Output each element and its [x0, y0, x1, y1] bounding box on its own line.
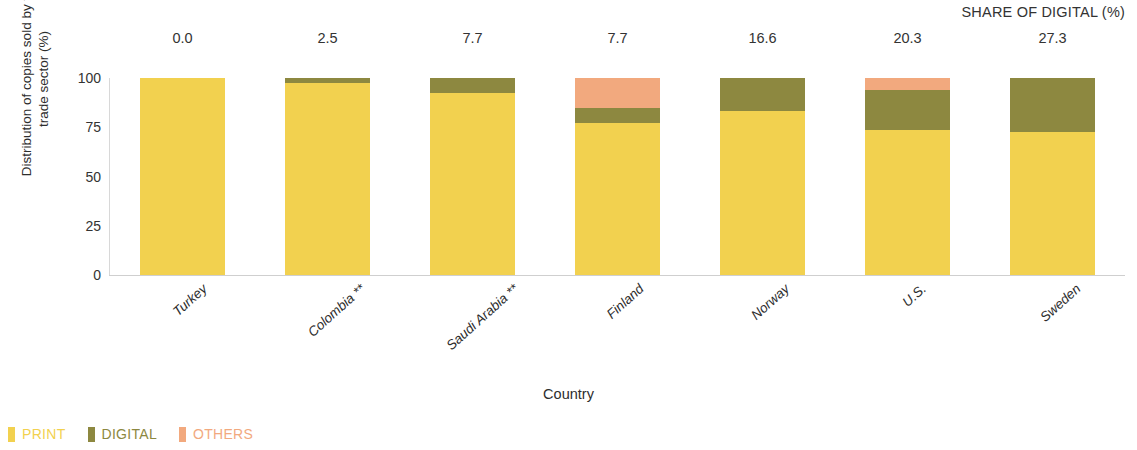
x-axis-tick-label: Saudi Arabia ** [443, 281, 521, 353]
x-axis-tick-slot: Sweden [980, 277, 1125, 372]
stacked-bar[interactable] [140, 78, 225, 275]
legend-item[interactable]: PRINT [8, 426, 66, 442]
x-axis-tick-slot: Turkey [110, 277, 255, 372]
bar-slot [110, 78, 255, 275]
share-of-digital-value-row: 0.02.57.77.716.620.327.3 [110, 30, 1125, 50]
x-axis-tick-label: Sweden [1037, 281, 1083, 325]
bar-segment-others[interactable] [865, 78, 950, 90]
bar-segment-digital[interactable] [430, 78, 515, 93]
bar-segment-digital[interactable] [865, 90, 950, 130]
stacked-bar-chart: SHARE OF DIGITAL (%) 0.02.57.77.716.620.… [0, 0, 1137, 450]
x-axis-tick-label: U.S. [899, 281, 929, 310]
share-of-digital-value: 16.6 [690, 30, 835, 50]
x-axis-tick-slot: Colombia ** [255, 277, 400, 372]
share-of-digital-value: 20.3 [835, 30, 980, 50]
bar-segment-others[interactable] [575, 78, 660, 108]
legend-label: PRINT [22, 426, 66, 442]
stacked-bar[interactable] [430, 78, 515, 275]
legend-item[interactable]: OTHERS [179, 426, 253, 442]
share-of-digital-value: 0.0 [110, 30, 255, 50]
x-axis-title: Country [0, 386, 1137, 402]
bar-segment-print[interactable] [575, 123, 660, 275]
bar-slot [400, 78, 545, 275]
bar-segment-print[interactable] [285, 83, 370, 275]
bar-segment-print[interactable] [140, 78, 225, 275]
bar-slot [255, 78, 400, 275]
legend-swatch-icon [8, 427, 15, 442]
x-axis-tick-label: Finland [603, 281, 646, 322]
legend-item[interactable]: DIGITAL [88, 426, 158, 442]
legend-swatch-icon [88, 427, 95, 442]
chart-legend: PRINTDIGITALOTHERS [8, 426, 253, 442]
x-axis-tick-slot: Saudi Arabia ** [400, 277, 545, 372]
bar-segment-digital[interactable] [1010, 78, 1095, 132]
share-of-digital-header: SHARE OF DIGITAL (%) [961, 4, 1125, 20]
bar-segment-print[interactable] [720, 111, 805, 275]
y-axis-tick-label: 25 [85, 218, 101, 234]
share-of-digital-value: 2.5 [255, 30, 400, 50]
bar-segment-print[interactable] [430, 93, 515, 275]
x-axis-tick-slot: U.S. [835, 277, 980, 372]
share-of-digital-value: 7.7 [400, 30, 545, 50]
bar-slot [835, 78, 980, 275]
legend-label: OTHERS [193, 426, 253, 442]
x-axis-tick-label: Colombia ** [304, 281, 367, 340]
x-axis-tick-label: Turkey [169, 281, 209, 319]
stacked-bar[interactable] [575, 78, 660, 275]
x-axis-tick-label: Norway [748, 281, 792, 323]
bar-segment-digital[interactable] [720, 78, 805, 111]
x-axis-line [109, 275, 1125, 276]
stacked-bar[interactable] [1010, 78, 1095, 275]
x-axis-tick-labels: TurkeyColombia **Saudi Arabia **FinlandN… [110, 277, 1125, 372]
y-axis-title: Distribution of copies sold by the trade… [18, 0, 52, 192]
x-axis-tick-slot: Finland [545, 277, 690, 372]
bar-slot [690, 78, 835, 275]
legend-swatch-icon [179, 427, 186, 442]
bar-slot [980, 78, 1125, 275]
bar-slot [545, 78, 690, 275]
plot-area: 0255075100 [110, 78, 1125, 275]
share-of-digital-value: 7.7 [545, 30, 690, 50]
bar-segment-digital[interactable] [575, 108, 660, 123]
legend-label: DIGITAL [102, 426, 158, 442]
y-axis-tick-label: 0 [93, 267, 101, 283]
bar-group [110, 78, 1125, 275]
bar-segment-print[interactable] [865, 130, 950, 275]
y-axis-tick-label: 100 [78, 70, 101, 86]
y-axis-tick-label: 50 [85, 169, 101, 185]
stacked-bar[interactable] [865, 78, 950, 275]
stacked-bar[interactable] [285, 78, 370, 275]
stacked-bar[interactable] [720, 78, 805, 275]
y-axis-tick-label: 75 [85, 119, 101, 135]
share-of-digital-value: 27.3 [980, 30, 1125, 50]
x-axis-tick-slot: Norway [690, 277, 835, 372]
bar-segment-print[interactable] [1010, 132, 1095, 275]
